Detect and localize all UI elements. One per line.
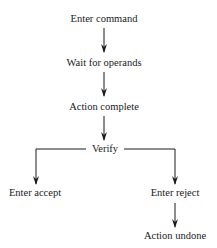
- node-verify: Verify: [90, 143, 120, 155]
- flowchart-connectors: [0, 0, 217, 248]
- arrow-verify-to-enter-accept: [33, 149, 86, 185]
- node-enter-reject: Enter reject: [149, 187, 202, 199]
- arrow-action-complete-to-verify: [101, 116, 107, 141]
- arrow-enter-reject-to-action-undone: [172, 203, 178, 228]
- flowchart-diagram: Enter command Wait for operands Action c…: [0, 0, 217, 248]
- node-wait-for-operands: Wait for operands: [65, 57, 144, 69]
- arrow-verify-to-enter-reject: [124, 149, 178, 185]
- node-action-undone: Action undone: [142, 230, 208, 242]
- arrow-wait-to-action-complete: [101, 72, 107, 97]
- node-enter-command: Enter command: [69, 13, 140, 25]
- arrow-enter-command-to-wait: [101, 28, 107, 53]
- node-action-complete: Action complete: [67, 101, 141, 113]
- node-enter-accept: Enter accept: [7, 187, 63, 199]
